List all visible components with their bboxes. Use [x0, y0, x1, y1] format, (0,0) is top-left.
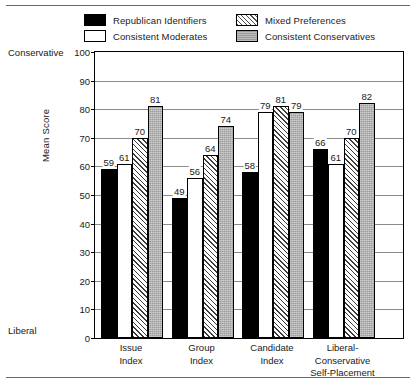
axis-endpoint-label-liberal: Liberal [8, 325, 37, 336]
swatch-black-icon [84, 14, 106, 26]
legend-item-label: Consistent Conservatives [265, 31, 375, 42]
swatch-hatch-icon [236, 14, 258, 26]
footer-rule [6, 377, 410, 378]
legend-item-label: Consistent Moderates [113, 31, 207, 42]
bar-value-label: 81 [149, 94, 162, 105]
bar[interactable]: 79 [289, 112, 305, 338]
bar-value-label: 66 [314, 137, 327, 148]
y-axis-tick-label: 10 [79, 304, 90, 315]
bar-value-label: 56 [188, 166, 201, 177]
y-axis-title: Mean Score [40, 109, 51, 162]
bar[interactable]: 82 [359, 103, 375, 338]
bar-value-label: 74 [219, 114, 232, 125]
y-axis-tick-label: 30 [79, 247, 90, 258]
bar-value-label: 70 [133, 126, 146, 137]
legend-item[interactable]: Consistent Conservatives [236, 28, 394, 44]
axis-endpoint-label-conservative: Conservative [8, 47, 63, 58]
bar-value-label: 49 [173, 186, 186, 197]
bar-value-label: 61 [118, 152, 131, 163]
bar[interactable]: 66 [313, 149, 329, 338]
header-rule [6, 5, 410, 6]
legend-item[interactable]: Republican Identifiers [84, 12, 236, 28]
legend-item[interactable]: Mixed Preferences [236, 12, 394, 28]
bar-value-label: 79 [290, 100, 303, 111]
bar-group-container: 59617081495664745879817966617082 [95, 52, 403, 338]
chart-legend: Republican IdentifiersMixed PreferencesC… [84, 12, 394, 44]
legend-item[interactable]: Consistent Moderates [84, 28, 236, 44]
bar-value-label: 58 [243, 160, 256, 171]
bar-value-label: 64 [204, 143, 217, 154]
y-axis-tick-label: 100 [74, 47, 90, 58]
bar-value-label: 81 [274, 94, 287, 105]
bar[interactable]: 61 [117, 164, 133, 338]
x-axis-category-label: Liberal- Conservative Self-Placement [298, 342, 388, 380]
bar[interactable]: 79 [258, 112, 274, 338]
bar[interactable]: 56 [187, 178, 203, 338]
bar[interactable]: 58 [242, 172, 258, 338]
swatch-white-icon [84, 30, 106, 42]
y-axis-tick-label: 60 [79, 161, 90, 172]
bar-value-label: 59 [102, 157, 115, 168]
legend-item-label: Mixed Preferences [265, 15, 346, 26]
bar[interactable]: 74 [218, 126, 234, 338]
bar-value-label: 82 [360, 91, 373, 102]
bar-value-label: 70 [345, 126, 358, 137]
y-axis-tick-mark [91, 338, 95, 339]
y-axis-tick-label: 80 [79, 104, 90, 115]
bar[interactable]: 64 [203, 155, 219, 338]
bar[interactable]: 49 [172, 198, 188, 338]
bar[interactable]: 70 [344, 138, 360, 338]
bar[interactable]: 70 [132, 138, 148, 338]
plot-area: 0102030405060708090100 59617081495664745… [94, 51, 404, 339]
y-axis-tick-label: 20 [79, 275, 90, 286]
y-axis-tick-label: 70 [79, 132, 90, 143]
bar-value-label: 79 [259, 100, 272, 111]
y-axis-tick-label: 50 [79, 190, 90, 201]
bar[interactable]: 81 [273, 106, 289, 338]
bar[interactable]: 61 [328, 164, 344, 338]
y-axis-tick-label: 90 [79, 75, 90, 86]
swatch-gray-icon [236, 30, 258, 42]
y-axis-tick-label: 40 [79, 218, 90, 229]
bar-value-label: 61 [329, 152, 342, 163]
bar[interactable]: 59 [101, 169, 117, 338]
legend-item-label: Republican Identifiers [113, 15, 207, 26]
bar[interactable]: 81 [148, 106, 164, 338]
